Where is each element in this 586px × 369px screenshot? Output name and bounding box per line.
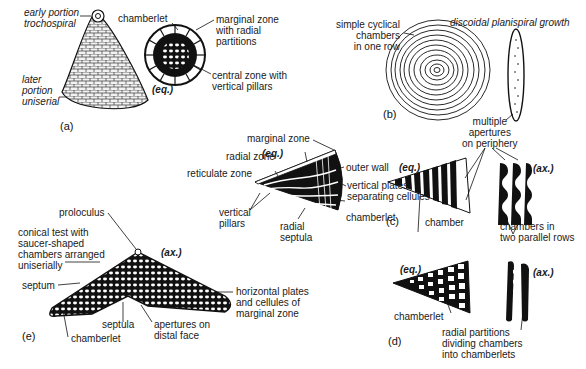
- panel-b-side-view: [506, 29, 524, 121]
- label-early-portion-trochospiral: early portion trochospiral: [24, 7, 79, 29]
- label-radial-septula: radial septula: [280, 221, 312, 243]
- label-septula: septula: [102, 319, 134, 330]
- label-multiple-apertures: multiple apertures on periphery: [462, 116, 518, 149]
- label-conical-test: conical test with saucer-shaped chambers…: [18, 227, 105, 271]
- label-chamber: chamber: [425, 217, 464, 228]
- label-chamberlet-e-ax: chamberlet: [71, 333, 120, 344]
- label-simple-cyclical-chambers: simple cyclical chambers in one row: [336, 19, 400, 52]
- label-radial-zone: radial zone: [226, 151, 275, 162]
- view-label-eq-a: (eq.): [152, 84, 173, 95]
- label-chamberlet-e-eq: chamberlet: [346, 212, 395, 223]
- view-label-eq-d: (eq.): [400, 264, 421, 275]
- panel-c-ax-view: [498, 163, 532, 225]
- label-horizontal-plates: horizontal plates and cellules of margin…: [236, 286, 309, 319]
- label-later-portion-uniserial: later portion uniserial: [22, 74, 59, 107]
- label-apertures-distal-face: apertures on distal face: [154, 319, 210, 341]
- label-vertical-plates-separating-cellules: vertical plates separating cellules: [347, 180, 430, 202]
- view-label-eq-c: (eq.): [399, 162, 420, 173]
- view-label-ax-e: (ax.): [161, 247, 182, 258]
- label-radial-partitions: radial partitions dividing chambers into…: [442, 327, 523, 360]
- label-marginal-zone: marginal zone: [247, 133, 310, 144]
- panel-label-b: (b): [383, 108, 396, 120]
- view-label-ax-c: (ax.): [533, 163, 554, 174]
- label-reticulate-zone: reticulate zone: [187, 168, 252, 179]
- label-marginal-zone-radial-partitions: marginal zone with radial partitions: [216, 14, 279, 47]
- label-vertical-pillars: vertical pillars: [219, 207, 251, 229]
- label-chambers-two-parallel-rows: chambers in two parallel rows: [500, 221, 574, 243]
- label-septum: septum: [22, 280, 55, 291]
- label-chamberlet-d: chamberlet: [394, 311, 443, 322]
- panel-d-ax-view: [506, 261, 529, 330]
- panel-label-d: (d): [388, 335, 401, 347]
- label-proloculus: proloculus: [59, 207, 105, 218]
- panel-a-eq-section: [145, 20, 214, 85]
- label-outer-wall: outer wall: [346, 162, 389, 173]
- view-label-ax-d: (ax.): [533, 267, 554, 278]
- label-discoidal-planispiral-growth: discoidal planispiral growth: [450, 17, 570, 28]
- label-chamberlet-a: chamberlet: [118, 13, 167, 24]
- panel-label-e: (e): [22, 330, 35, 342]
- panel-b-disc: [386, 20, 490, 120]
- label-central-zone-vertical-pillars: central zone with vertical pillars: [212, 70, 287, 92]
- panel-label-a: (a): [60, 120, 73, 132]
